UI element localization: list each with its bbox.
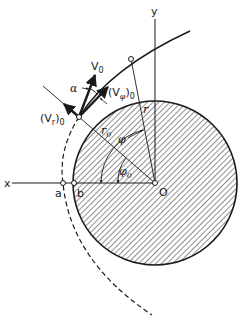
orbital-diagram: y x O a b V0 (Vφ)0 (Vr)0 α φ φ0 r (0, 0, 243, 321)
origin-point (153, 181, 158, 186)
point-b-label: b (77, 187, 84, 200)
point-a (61, 181, 66, 186)
phi-label: φ (118, 133, 126, 146)
alpha-arc (91, 89, 98, 95)
origin-label: O (159, 186, 168, 199)
trajectory-point (129, 57, 134, 62)
vphi0-vector (79, 87, 108, 117)
alpha-pointer (82, 88, 89, 89)
y-axis-label: y (151, 5, 158, 18)
vr0-label: (Vr)0 (40, 112, 65, 127)
launch-point (77, 115, 82, 120)
point-a-label: a (55, 187, 62, 200)
vphi0-pointer (100, 98, 107, 104)
r-label: r (143, 103, 149, 116)
v0-vector (79, 75, 95, 117)
vphi0-label: (Vφ)0 (108, 86, 135, 101)
x-axis-label: x (4, 177, 11, 190)
point-b (72, 181, 77, 186)
alpha-label: α (70, 82, 78, 95)
v0-label: V0 (91, 60, 104, 75)
